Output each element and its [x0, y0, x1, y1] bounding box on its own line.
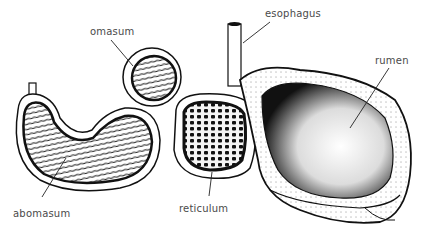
omasum-leader-line	[111, 40, 133, 66]
reticulum-shape	[174, 94, 256, 179]
label-reticulum: reticulum	[179, 204, 228, 214]
label-rumen: rumen	[375, 56, 409, 66]
label-abomasum: abomasum	[13, 209, 70, 219]
stomach-diagram	[0, 0, 421, 235]
esophagus-shape	[228, 22, 241, 86]
esophagus-leader-line	[243, 22, 270, 43]
label-esophagus: esophagus	[265, 9, 321, 19]
omasum-shape	[123, 48, 181, 106]
label-omasum: omasum	[90, 27, 134, 37]
rumen-shape	[240, 68, 411, 223]
